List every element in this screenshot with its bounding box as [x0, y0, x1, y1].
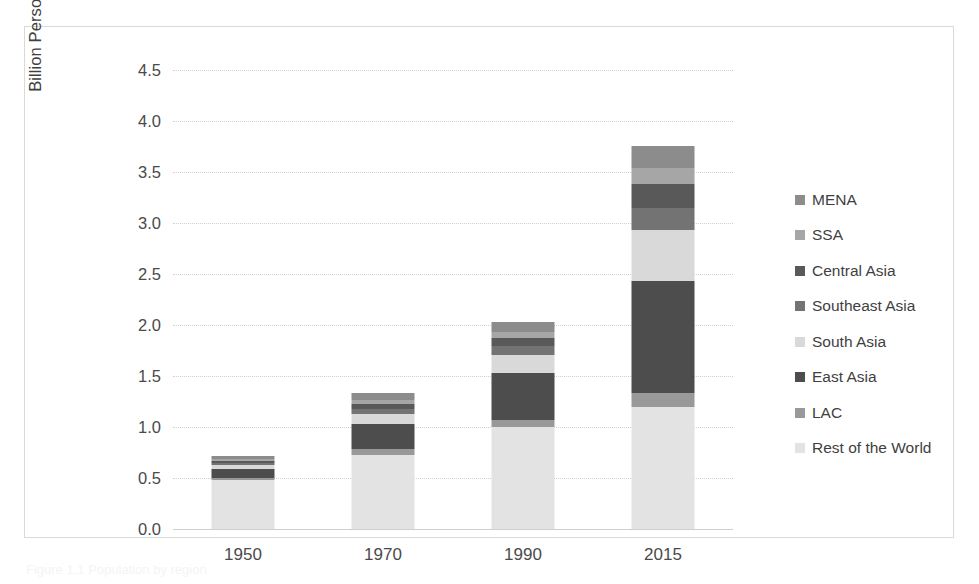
legend-swatch-icon	[795, 301, 805, 311]
x-axis-tick-label: 1990	[504, 545, 542, 565]
legend-swatch-icon	[795, 337, 805, 347]
y-axis-tick-label: 2.5	[138, 265, 161, 284]
legend-item[interactable]: Southeast Asia	[795, 289, 975, 325]
bar-segment[interactable]	[492, 322, 555, 332]
y-axis-title-label: Billion Persons	[26, 0, 45, 92]
bar-segment[interactable]	[632, 168, 695, 184]
bar-segment[interactable]	[352, 424, 415, 450]
plot-area: 4.54.03.53.02.52.01.51.00.50.0 195019701…	[173, 70, 733, 529]
y-axis-tick-label: 4.0	[138, 112, 161, 131]
stacked-bar[interactable]	[212, 456, 275, 529]
bar-slot: 1970	[313, 70, 453, 529]
legend-item-label: LAC	[812, 404, 842, 422]
x-axis-tick-label: 2015	[644, 545, 682, 565]
bar-segment[interactable]	[632, 281, 695, 393]
bar-segment[interactable]	[632, 208, 695, 230]
x-axis-tick-label: 1950	[224, 545, 262, 565]
bar-segment[interactable]	[632, 184, 695, 207]
y-axis-tick-label: 2.0	[138, 316, 161, 335]
y-axis-tick-label: 0.5	[138, 469, 161, 488]
y-axis-tick-label: 1.0	[138, 418, 161, 437]
y-axis-tick-label: 4.5	[138, 61, 161, 80]
bar-segment[interactable]	[492, 420, 555, 427]
legend-item[interactable]: Rest of the World	[795, 431, 975, 467]
bar-slot: 1990	[453, 70, 593, 529]
chart-legend: MENASSACentral AsiaSoutheast AsiaSouth A…	[795, 182, 975, 466]
legend-swatch-icon	[795, 230, 805, 240]
bar-segment[interactable]	[632, 146, 695, 168]
bar-segment[interactable]	[492, 427, 555, 529]
stacked-bar[interactable]	[352, 393, 415, 529]
figure-caption-remnant: Figure 1.1 Population by region	[26, 562, 207, 577]
legend-item[interactable]: East Asia	[795, 360, 975, 396]
chart-frame: Billion Persons 4.54.03.53.02.52.01.51.0…	[24, 26, 954, 538]
legend-swatch-icon	[795, 443, 805, 453]
legend-swatch-icon	[795, 195, 805, 205]
bar-segment[interactable]	[492, 346, 555, 354]
bar-segment[interactable]	[352, 455, 415, 529]
legend-item-label: Central Asia	[812, 262, 896, 280]
y-axis-tick-label: 3.0	[138, 214, 161, 233]
x-axis-tick-label: 1970	[364, 545, 402, 565]
bar-segment[interactable]	[212, 469, 275, 478]
bar-segment[interactable]	[632, 230, 695, 281]
legend-item-label: MENA	[812, 191, 857, 209]
legend-swatch-icon	[795, 372, 805, 382]
bar-segment[interactable]	[492, 355, 555, 373]
bar-segment[interactable]	[492, 373, 555, 420]
bar-segment[interactable]	[632, 407, 695, 529]
y-axis-title: Billion Persons	[25, 27, 45, 357]
legend-item-label: South Asia	[812, 333, 886, 351]
legend-swatch-icon	[795, 408, 805, 418]
bar-segment[interactable]	[492, 338, 555, 346]
y-axis-tick-label: 0.0	[138, 520, 161, 539]
legend-item[interactable]: MENA	[795, 182, 975, 218]
legend-item-label: SSA	[812, 226, 843, 244]
legend-item[interactable]: South Asia	[795, 324, 975, 360]
bar-slot: 1950	[173, 70, 313, 529]
stacked-bar[interactable]	[492, 322, 555, 529]
bar-slot: 2015	[593, 70, 733, 529]
bar-segment[interactable]	[352, 414, 415, 424]
stacked-bar[interactable]	[632, 146, 695, 529]
legend-item-label: Rest of the World	[812, 439, 931, 457]
legend-item[interactable]: Central Asia	[795, 253, 975, 289]
legend-item[interactable]: LAC	[795, 395, 975, 431]
bar-segment[interactable]	[212, 480, 275, 529]
legend-item-label: East Asia	[812, 368, 877, 386]
legend-item-label: Southeast Asia	[812, 297, 915, 315]
gridline	[173, 529, 733, 530]
y-axis-tick-label: 1.5	[138, 367, 161, 386]
legend-swatch-icon	[795, 266, 805, 276]
y-axis-tick-label: 3.5	[138, 163, 161, 182]
bar-segment[interactable]	[632, 393, 695, 406]
legend-item[interactable]: SSA	[795, 218, 975, 254]
